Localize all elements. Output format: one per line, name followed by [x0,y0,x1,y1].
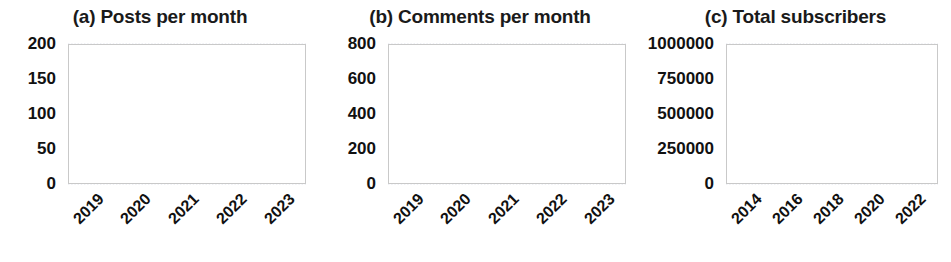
panel-a-y-axis: 0 50 100 150 200 [0,44,62,184]
panel-a-title: (a) Posts per month [0,6,320,28]
x-tick: 2020 [851,190,889,228]
y-tick: 200 [348,139,376,159]
x-tick: 2022 [892,190,930,228]
x-tick: 2023 [581,190,619,228]
panel-c-x-axis: 2014 2016 2018 2020 2022 [640,186,951,256]
x-tick: 2016 [769,190,807,228]
x-tick: 2018 [810,190,848,228]
y-tick: 1000000 [648,34,714,54]
y-tick: 500000 [657,104,714,124]
y-tick: 50 [37,139,56,159]
panel-c-frame [726,44,938,184]
x-tick: 2021 [165,190,203,228]
x-tick: 2020 [437,190,475,228]
x-tick: 2019 [70,190,108,228]
y-tick: 800 [348,34,376,54]
panel-b-y-axis: 0 200 400 600 800 [320,44,382,184]
y-tick: 250000 [657,139,714,159]
panel-b-x-axis: 2019 2020 2021 2022 2023 [320,186,640,256]
y-tick: 750000 [657,69,714,89]
y-tick: 200 [28,34,56,54]
panel-c-y-axis: 0 250000 500000 750000 1000000 [640,44,720,184]
panel-a-x-axis: 2019 2020 2021 2022 2023 [0,186,320,256]
x-tick: 2020 [117,190,155,228]
panel-total-subscribers: (c) Total subscribers 0 250000 500000 75… [640,0,951,262]
panel-c-plot-area [726,44,938,184]
x-tick: 2019 [390,190,428,228]
panel-a-plot-area [68,44,306,184]
panel-posts-per-month: (a) Posts per month 0 50 100 150 200 201… [0,0,320,262]
panel-b-plot-area [388,44,626,184]
y-tick: 100 [28,104,56,124]
x-tick: 2022 [213,190,251,228]
y-tick: 150 [28,69,56,89]
panel-comments-per-month: (b) Comments per month 0 200 400 600 800… [320,0,640,262]
panel-b-title: (b) Comments per month [320,6,640,28]
x-tick: 2022 [533,190,571,228]
panel-c-title: (c) Total subscribers [640,6,951,28]
x-tick: 2023 [261,190,299,228]
figure-container: (a) Posts per month 0 50 100 150 200 201… [0,0,951,262]
y-tick: 400 [348,104,376,124]
panel-b-frame [388,44,626,184]
panel-a-frame [68,44,306,184]
y-tick: 600 [348,69,376,89]
x-tick: 2021 [485,190,523,228]
x-tick: 2014 [728,190,766,228]
